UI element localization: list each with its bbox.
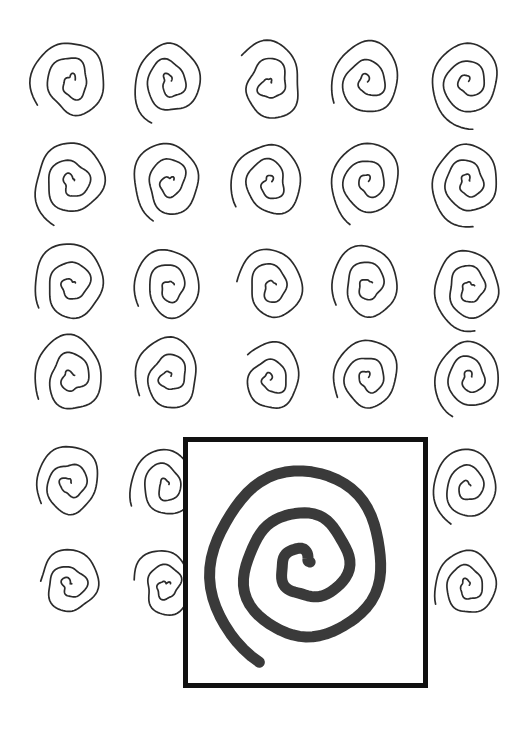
- inset-panel-layer: [0, 0, 531, 737]
- figure-canvas: [0, 0, 531, 737]
- inset-panel-svg: [0, 0, 531, 737]
